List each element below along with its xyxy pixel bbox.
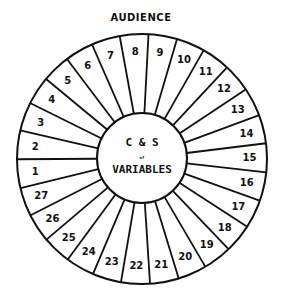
segment-label-20: 20: [178, 251, 192, 262]
segment-label-18: 18: [218, 222, 232, 233]
segment-label-7: 7: [107, 50, 114, 61]
segment-label-22: 22: [129, 260, 143, 271]
segment-label-2: 2: [32, 141, 39, 152]
segment-label-1: 1: [32, 166, 39, 177]
segment-label-11: 11: [199, 66, 213, 77]
segment-label-10: 10: [177, 54, 191, 65]
segment-divider: [144, 34, 148, 114]
center-label-line3: VARIABLES: [112, 163, 172, 176]
segment-label-19: 19: [200, 239, 214, 250]
segment-label-15: 15: [243, 152, 257, 163]
segment-label-9: 9: [157, 47, 164, 58]
segment-label-17: 17: [231, 201, 245, 212]
segment-label-26: 26: [46, 213, 60, 224]
segment-label-21: 21: [154, 259, 168, 270]
segment-label-14: 14: [239, 128, 253, 139]
segment-divider: [187, 163, 267, 172]
audience-wheel-diagram: 1234567891011121314151617181920212223242…: [0, 0, 282, 301]
segment-label-27: 27: [34, 190, 48, 201]
segment-label-3: 3: [37, 117, 44, 128]
segment-label-6: 6: [84, 60, 91, 71]
center-label-line1: C & S: [125, 136, 158, 149]
segment-label-12: 12: [217, 83, 231, 94]
segment-label-16: 16: [240, 177, 254, 188]
segment-divider: [145, 203, 150, 283]
center-label-line2: of: [140, 155, 145, 160]
segment-label-23: 23: [105, 256, 119, 267]
segment-label-25: 25: [62, 232, 76, 243]
segment-label-4: 4: [48, 94, 55, 105]
segment-label-13: 13: [231, 104, 245, 115]
segment-label-8: 8: [132, 46, 139, 57]
segment-label-5: 5: [64, 75, 71, 86]
segment-label-24: 24: [82, 246, 96, 257]
